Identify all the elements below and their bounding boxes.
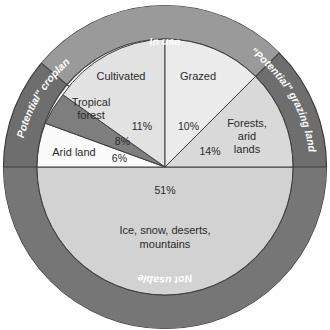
slice-label-cultivated: Cultivated bbox=[97, 70, 146, 82]
pie-chart-figure: In use Not usable "Potential" cropland "… bbox=[0, 0, 330, 330]
slice-label-tropical-forest-line2: forest bbox=[77, 109, 105, 121]
slice-label-arid-land: Arid land bbox=[52, 146, 95, 158]
slice-label-forests-arid-lands-line2: arid bbox=[238, 130, 256, 142]
percent-label-arid-land: 6% bbox=[112, 152, 127, 164]
slice-label-forests-arid-lands-line1: Forests, bbox=[227, 117, 267, 129]
slice-label-forests-arid-lands-line3: lands bbox=[234, 143, 261, 155]
ring-label-in-use: In use bbox=[149, 35, 181, 48]
slice-label-ice-snow-line2: mountains bbox=[140, 238, 191, 250]
percent-label-forests-arid-lands: 14% bbox=[199, 145, 220, 157]
percent-label-grazed: 10% bbox=[178, 120, 199, 132]
slice-label-tropical-forest-line1: Tropical bbox=[72, 96, 111, 108]
land-use-pie-chart: In use Not usable "Potential" cropland "… bbox=[0, 0, 330, 330]
slice-label-grazed: Grazed bbox=[180, 70, 216, 82]
percent-label-cultivated: 11% bbox=[132, 120, 152, 132]
percent-label-tropical-forest: 8% bbox=[115, 135, 130, 147]
slice-label-ice-snow-line1: Ice, snow, deserts, bbox=[119, 224, 210, 236]
percent-label-ice-snow: 51% bbox=[154, 184, 175, 196]
